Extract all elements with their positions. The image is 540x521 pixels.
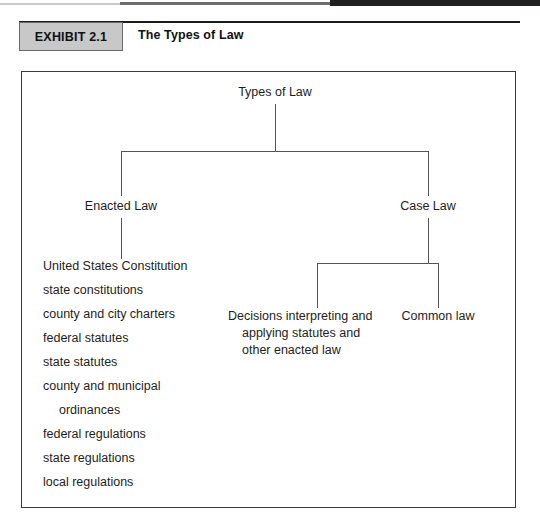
list-item: state statutes: [43, 350, 188, 374]
list-item-wrapped: county and municipal ordinances: [43, 374, 188, 422]
connector-root-stem: [275, 104, 276, 151]
node-enacted-law: Enacted Law: [85, 198, 157, 214]
node-types-of-law: Types of Law: [238, 84, 312, 100]
list-item: federal regulations: [43, 422, 188, 446]
trim-band-light-segment: [0, 3, 125, 5]
enacted-law-list: United States Constitution state constit…: [43, 254, 188, 494]
node-common-law: Common law: [402, 308, 475, 324]
list-item: federal statutes: [43, 326, 188, 350]
decisions-line3: other enacted law: [228, 342, 393, 359]
exhibit-header: EXHIBIT 2.1 The Types of Law: [0, 14, 540, 58]
connector-case-bus: [317, 263, 439, 264]
decisions-line1: Decisions interpreting and: [228, 308, 393, 325]
connector-case-drop: [428, 151, 429, 196]
exhibit-tag-label: EXHIBIT 2.1: [35, 30, 107, 44]
exhibit-title: The Types of Law: [138, 28, 244, 42]
connector-decisions-drop: [317, 263, 318, 308]
exhibit-tag: EXHIBIT 2.1: [19, 22, 123, 51]
list-item: state constitutions: [43, 278, 188, 302]
page-top-trim-band: [0, 0, 540, 7]
list-item: United States Constitution: [43, 254, 188, 278]
list-item: local regulations: [43, 470, 188, 494]
list-item: state regulations: [43, 446, 188, 470]
connector-common-law-drop: [438, 263, 439, 308]
connector-enacted-stem: [121, 218, 122, 259]
decisions-line2: applying statutes and: [228, 325, 393, 342]
connector-case-stem: [428, 218, 429, 263]
connector-enacted-drop: [121, 151, 122, 196]
trim-band-dark-segment: [330, 0, 540, 6]
connector-level1-bus: [121, 151, 429, 152]
trim-band-mid-segment: [120, 2, 335, 5]
list-item: county and city charters: [43, 302, 188, 326]
list-item-line1: county and municipal: [43, 379, 160, 393]
diagram-frame: Types of Law Enacted Law Case Law United…: [21, 71, 516, 508]
node-case-law: Case Law: [400, 198, 456, 214]
node-decisions-interpreting: Decisions interpreting and applying stat…: [228, 308, 393, 359]
list-item-line2: ordinances: [43, 398, 188, 422]
